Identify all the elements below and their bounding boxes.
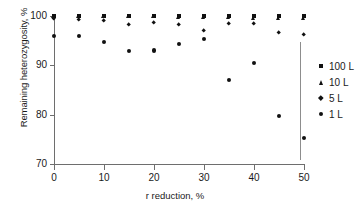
data-point	[277, 114, 281, 118]
y-tick-label: 90	[21, 59, 47, 70]
x-tick	[154, 165, 155, 170]
square-marker-icon	[316, 64, 326, 68]
diamond-marker-icon	[316, 96, 326, 100]
chart-figure: Remaining heterozygosity, % r reduction,…	[0, 0, 364, 215]
legend-item-label: 1 L	[329, 109, 343, 120]
legend-item-label: 10 L	[329, 77, 348, 88]
x-tick-label: 10	[89, 172, 119, 183]
x-tick-label: 30	[189, 172, 219, 183]
x-tick-label: 20	[139, 172, 169, 183]
x-tick	[254, 165, 255, 170]
data-point	[276, 16, 280, 20]
data-point	[252, 61, 256, 65]
legend-item-label: 5 L	[329, 93, 343, 104]
legend-divider	[300, 42, 301, 160]
chart-legend: 100 L10 L5 L1 L	[316, 58, 364, 122]
legend-item-label: 100 L	[329, 61, 354, 72]
x-axis-line	[54, 164, 305, 165]
data-point	[301, 16, 305, 20]
x-tick-label: 50	[289, 172, 319, 183]
data-point	[251, 16, 255, 20]
plot-area	[54, 16, 304, 164]
data-point	[126, 14, 130, 18]
x-tick	[304, 165, 305, 170]
x-tick	[104, 165, 105, 170]
x-axis-title: r reduction, %	[46, 190, 304, 201]
data-point	[177, 42, 181, 46]
x-tick	[54, 165, 55, 170]
x-tick	[204, 165, 205, 170]
legend-item-10-l[interactable]: 10 L	[316, 74, 364, 90]
data-point	[151, 14, 155, 18]
data-point	[152, 48, 156, 52]
y-tick-label: 70	[21, 158, 47, 169]
data-point	[201, 15, 205, 19]
y-axis-title: Remaining heterozygosity, %	[18, 0, 29, 143]
legend-item-5-l[interactable]: 5 L	[316, 90, 364, 106]
triangle-marker-icon	[316, 80, 326, 85]
data-point	[176, 15, 180, 19]
x-tick-label: 40	[239, 172, 269, 183]
legend-item-1-l[interactable]: 1 L	[316, 106, 364, 122]
data-point	[302, 32, 307, 37]
data-point	[226, 15, 230, 19]
circle-marker-icon	[316, 112, 326, 116]
legend-item-100-l[interactable]: 100 L	[316, 58, 364, 74]
data-point	[302, 136, 306, 140]
y-tick	[50, 115, 55, 116]
y-tick	[50, 65, 55, 66]
x-tick-label: 0	[39, 172, 69, 183]
y-tick-label: 100	[21, 10, 47, 21]
y-tick-label: 80	[21, 109, 47, 120]
